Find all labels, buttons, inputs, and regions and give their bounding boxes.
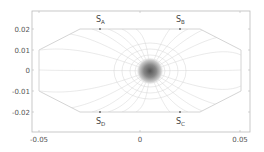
contour-plot: SA SB SC SD 0.02 0.01 0 -0.01 -0.02 -0.0… <box>0 0 264 152</box>
sensor-d-marker <box>99 111 101 113</box>
sensor-a-marker <box>99 28 101 30</box>
source-blob <box>136 57 164 85</box>
sensor-d-label: SD <box>96 117 105 127</box>
x-tick-label: 0.05 <box>232 136 248 144</box>
y-tick-label: 0.02 <box>14 26 30 34</box>
sensor-c-label: SC <box>176 117 185 127</box>
sensor-b-label: SB <box>176 15 185 25</box>
x-tick-label: -0.05 <box>30 136 48 144</box>
sensor-b-marker <box>179 28 181 30</box>
y-tick-label: -0.02 <box>12 109 30 117</box>
y-tick-label: 0 <box>26 67 30 75</box>
y-tick-label: -0.01 <box>12 88 30 96</box>
x-tick-label: 0 <box>138 136 142 144</box>
y-tick-label: 0.01 <box>14 47 30 55</box>
sensor-a-label: SA <box>96 15 105 25</box>
sensor-c-marker <box>179 111 181 113</box>
